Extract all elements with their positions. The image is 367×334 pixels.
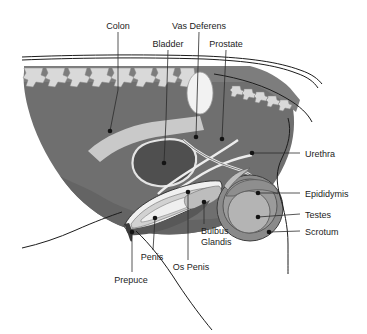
dot-epididymis	[256, 191, 261, 196]
label-glandis: Glandis	[201, 237, 232, 247]
dot-colon	[108, 129, 113, 134]
label-bladder: Bladder	[152, 39, 183, 49]
testis	[228, 191, 270, 233]
dot-scrotum	[267, 230, 272, 235]
dot-penis	[153, 216, 158, 221]
label-urethra: Urethra	[305, 149, 335, 159]
label-prostate: Prostate	[209, 39, 243, 49]
dot-urethra	[250, 151, 255, 156]
dot-vas-deferens	[194, 135, 199, 140]
label-os-penis: Os Penis	[173, 262, 210, 272]
dot-bladder	[162, 161, 167, 166]
label-scrotum: Scrotum	[305, 227, 339, 237]
dot-prepuce	[130, 230, 135, 235]
label-prepuce: Prepuce	[114, 275, 148, 285]
figure-canvas: Colon Vas Deferens Bladder Prostate Uret…	[0, 0, 367, 334]
label-testes: Testes	[305, 210, 332, 220]
dot-prostate	[220, 137, 225, 142]
prostate	[187, 72, 213, 114]
label-vas-deferens: Vas Deferens	[172, 21, 226, 31]
dot-os-penis	[186, 190, 191, 195]
belly-outline-left	[22, 212, 122, 248]
label-epididymis: Epididymis	[305, 189, 349, 199]
label-penis: Penis	[141, 252, 164, 262]
label-bulbus: Bulbus	[201, 226, 229, 236]
label-colon: Colon	[106, 21, 130, 31]
dot-bulbus-glandis	[202, 200, 207, 205]
anatomy-diagram: Colon Vas Deferens Bladder Prostate Uret…	[0, 0, 367, 334]
dot-testes	[256, 215, 261, 220]
